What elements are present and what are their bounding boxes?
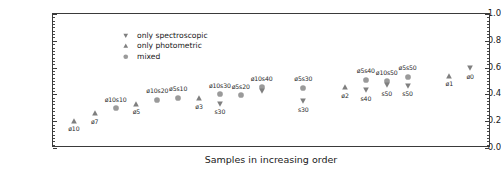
y-axis-minor-tick: [53, 71, 55, 72]
data-point: [154, 97, 161, 104]
y-axis-major-tick: [53, 148, 57, 149]
y-axis-minor-tick: [487, 131, 489, 132]
y-axis-minor-tick: [487, 27, 489, 28]
y-axis-minor-tick: [487, 48, 489, 49]
y-axis-minor-tick: [53, 31, 55, 32]
data-point-label: ø5s10: [169, 85, 187, 92]
data-point: [175, 95, 182, 102]
data-point: [467, 65, 474, 72]
legend-item-label: only spectroscopic: [137, 31, 208, 40]
y-axis-minor-tick: [53, 98, 55, 99]
data-point: [71, 117, 78, 124]
y-axis-minor-tick: [487, 104, 489, 105]
data-point: [342, 84, 349, 91]
y-axis-major-tick: [485, 94, 489, 95]
data-point-label: ø5s20: [232, 83, 250, 90]
data-point: [404, 82, 411, 89]
data-point-label: ø7: [91, 118, 98, 125]
y-axis-minor-tick: [487, 54, 489, 55]
data-point-label: ø5s30: [294, 75, 312, 82]
data-point: [300, 98, 307, 105]
triangle-down-icon: [115, 33, 137, 39]
y-axis-minor-tick: [53, 61, 55, 62]
y-axis-minor-tick: [53, 135, 55, 136]
y-axis-minor-tick: [487, 64, 489, 65]
y-axis-minor-tick: [53, 118, 55, 119]
y-axis-minor-tick: [487, 128, 489, 129]
y-axis-minor-tick: [487, 101, 489, 102]
data-point: [363, 76, 370, 83]
y-axis-minor-tick: [487, 51, 489, 52]
data-point-label: ø0: [466, 73, 473, 80]
chart-legend: only spectroscopiconly photometricmixed: [115, 30, 208, 62]
data-point: [112, 105, 119, 112]
data-point-label: ø5: [133, 108, 140, 115]
y-axis-minor-tick: [487, 58, 489, 59]
y-axis-minor-tick: [487, 141, 489, 142]
y-axis-minor-tick: [487, 81, 489, 82]
data-point-label: s30: [215, 108, 226, 115]
data-point: [217, 101, 224, 108]
data-point: [196, 95, 203, 102]
y-axis-minor-tick: [487, 91, 489, 92]
data-point-label: ø10s30: [209, 82, 231, 89]
data-point-label: s40: [361, 95, 372, 102]
y-axis-minor-tick: [487, 125, 489, 126]
y-axis-minor-tick: [53, 21, 55, 22]
y-axis-minor-tick: [53, 34, 55, 35]
y-axis-minor-tick: [53, 27, 55, 28]
y-axis-minor-tick: [487, 37, 489, 38]
legend-item: only photometric: [115, 41, 208, 52]
y-axis-minor-tick: [487, 84, 489, 85]
y-axis-minor-tick: [53, 58, 55, 59]
data-point-label: ø10s50: [376, 69, 398, 76]
data-point: [237, 92, 244, 99]
y-axis-minor-tick: [53, 88, 55, 89]
y-axis-minor-tick: [53, 104, 55, 105]
y-axis-minor-tick: [487, 88, 489, 89]
y-axis-minor-tick: [53, 44, 55, 45]
y-axis-minor-tick: [53, 128, 55, 129]
data-point: [446, 72, 453, 79]
y-axis-minor-tick: [53, 145, 55, 146]
data-point: [300, 84, 307, 91]
circle-icon: [115, 54, 137, 60]
y-axis-minor-tick: [487, 71, 489, 72]
plot-area: only spectroscopiconly photometricmixed …: [52, 13, 490, 147]
data-point-label: ø10s10: [105, 96, 127, 103]
y-axis-minor-tick: [53, 108, 55, 109]
y-axis-minor-tick: [487, 138, 489, 139]
data-point-label: ø1: [446, 80, 453, 87]
data-point-label: s50: [381, 90, 392, 97]
y-axis-minor-tick: [53, 81, 55, 82]
y-axis-minor-tick: [487, 17, 489, 18]
y-axis-minor-tick: [487, 44, 489, 45]
y-axis-minor-tick: [53, 91, 55, 92]
triangle-up-icon: [115, 43, 137, 49]
y-axis-minor-tick: [487, 78, 489, 79]
data-point: [258, 88, 265, 95]
y-axis-major-tick: [485, 121, 489, 122]
data-point: [383, 78, 390, 85]
y-axis-major-tick: [53, 41, 57, 42]
y-axis-minor-tick: [487, 34, 489, 35]
y-axis-minor-tick: [53, 74, 55, 75]
y-axis-minor-tick: [53, 51, 55, 52]
scatter-chart-figure: Fraction of galaxies in filaments 0.00.2…: [0, 0, 501, 179]
y-axis-minor-tick: [487, 21, 489, 22]
y-axis-minor-tick: [53, 115, 55, 116]
y-axis-minor-tick: [53, 54, 55, 55]
y-axis-major-tick: [485, 41, 489, 42]
y-axis-minor-tick: [487, 108, 489, 109]
y-axis-minor-tick: [487, 118, 489, 119]
data-point-label: ø5s40: [357, 67, 375, 74]
y-axis-minor-tick: [487, 31, 489, 32]
data-point-label: s30: [298, 106, 309, 113]
y-axis-minor-tick: [487, 24, 489, 25]
y-axis-major-tick: [53, 14, 57, 15]
y-axis-minor-tick: [53, 78, 55, 79]
y-axis-major-tick: [53, 68, 57, 69]
y-axis-minor-tick: [487, 135, 489, 136]
y-axis-minor-tick: [53, 111, 55, 112]
y-axis-minor-tick: [53, 125, 55, 126]
